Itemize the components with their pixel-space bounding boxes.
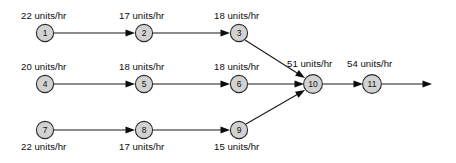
- arrowhead-icon: [126, 30, 136, 37]
- arrowhead-icon: [221, 127, 231, 134]
- node-7[interactable]: 7: [36, 121, 53, 138]
- rate-label-n5: 18 units/hr: [119, 61, 164, 72]
- node-9[interactable]: 9: [230, 121, 247, 138]
- arrowhead-icon: [221, 30, 231, 37]
- node-label-6: 6: [237, 79, 242, 89]
- arrowhead-icon: [295, 70, 305, 78]
- node-6[interactable]: 6: [230, 75, 247, 92]
- node-10[interactable]: 10: [304, 75, 323, 94]
- arrowhead-icon: [354, 81, 364, 88]
- node-label-11: 11: [368, 79, 377, 89]
- node-label-4: 4: [43, 79, 48, 89]
- node-label-8: 8: [142, 125, 147, 135]
- node-label-3: 3: [237, 28, 242, 38]
- arrowhead-icon: [423, 81, 433, 88]
- rate-label-n4: 20 units/hr: [21, 61, 66, 72]
- arrowhead-icon: [295, 81, 305, 88]
- arrowhead-icon: [126, 127, 136, 134]
- node-4[interactable]: 4: [36, 75, 53, 92]
- node-label-7: 7: [43, 125, 48, 135]
- nodes-layer: 1234567891011: [36, 24, 381, 138]
- rate-label-n8: 17 units/hr: [119, 141, 164, 152]
- node-1[interactable]: 1: [36, 24, 53, 41]
- arrowhead-icon: [126, 81, 136, 88]
- node-label-10: 10: [308, 79, 318, 89]
- rate-label-n1: 22 units/hr: [21, 10, 66, 21]
- edge-n9-to-n10: [246, 94, 299, 124]
- rate-label-n6: 18 units/hr: [214, 61, 259, 72]
- node-label-9: 9: [237, 125, 242, 135]
- flow-network-svg: 1234567891011: [0, 0, 456, 163]
- arrowhead-icon: [295, 90, 305, 98]
- rate-label-n3: 18 units/hr: [214, 10, 259, 21]
- rate-label-n10: 51 units/hr: [287, 58, 332, 69]
- rate-label-n9: 15 units/hr: [214, 141, 259, 152]
- node-8[interactable]: 8: [135, 121, 152, 138]
- node-5[interactable]: 5: [135, 75, 152, 92]
- arrowhead-icon: [221, 81, 231, 88]
- rate-label-n11: 54 units/hr: [347, 58, 392, 69]
- node-label-1: 1: [43, 28, 48, 38]
- rate-label-n2: 17 units/hr: [119, 10, 164, 21]
- node-3[interactable]: 3: [230, 24, 247, 41]
- rate-label-n7: 22 units/hr: [21, 141, 66, 152]
- node-label-2: 2: [142, 28, 147, 38]
- node-label-5: 5: [142, 79, 147, 89]
- node-11[interactable]: 11: [363, 75, 382, 94]
- process-flow-diagram: 1234567891011 22 units/hr17 units/hr18 u…: [0, 0, 456, 163]
- node-2[interactable]: 2: [135, 24, 152, 41]
